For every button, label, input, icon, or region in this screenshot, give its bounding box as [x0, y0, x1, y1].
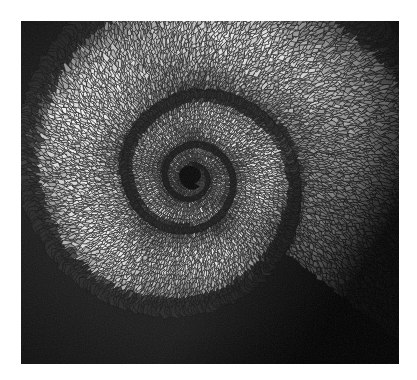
photo-page: [0, 0, 417, 380]
film-grain-overlay: [21, 21, 399, 364]
photograph: [21, 21, 399, 364]
chameleon-tail-spiral-image: [21, 21, 399, 364]
